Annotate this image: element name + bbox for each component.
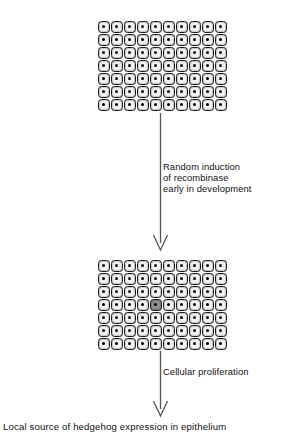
epithelial-cell <box>110 46 123 59</box>
epithelial-cell <box>97 272 110 285</box>
cell-nucleus <box>141 77 144 80</box>
cell-nucleus <box>180 25 183 28</box>
arrow-proliferation <box>152 351 169 419</box>
cell-nucleus <box>180 303 183 306</box>
cell-nucleus <box>167 316 170 319</box>
cell-nucleus <box>154 342 157 345</box>
cell-nucleus <box>167 77 170 80</box>
epithelial-cell <box>110 72 123 85</box>
cell-nucleus <box>102 90 105 93</box>
epithelial-cell <box>136 324 149 337</box>
cell-nucleus <box>180 38 183 41</box>
epithelial-cell <box>188 324 201 337</box>
cell-nucleus <box>167 103 170 106</box>
epithelial-cell <box>136 311 149 324</box>
cell-nucleus <box>102 264 105 267</box>
figure-container: Random induction of recombinase early in… <box>0 0 283 436</box>
epithelial-cell <box>149 59 162 72</box>
cell-nucleus <box>219 264 222 267</box>
epithelial-cell <box>97 324 110 337</box>
epithelial-cell <box>136 85 149 98</box>
cell-nucleus <box>102 25 105 28</box>
cell-nucleus <box>206 77 209 80</box>
epithelial-cell <box>123 46 136 59</box>
cell-nucleus <box>115 38 118 41</box>
epithelial-cell <box>136 98 149 111</box>
cell-nucleus <box>206 342 209 345</box>
cell-nucleus <box>206 329 209 332</box>
epithelial-cell <box>201 298 214 311</box>
epithelial-cell <box>175 311 188 324</box>
cell-nucleus <box>128 51 131 54</box>
cell-nucleus <box>167 342 170 345</box>
step-label-random-induction: Random induction of recombinase early in… <box>163 161 252 195</box>
epithelial-cell <box>201 337 214 350</box>
cell-nucleus <box>167 303 170 306</box>
cell-nucleus <box>128 264 131 267</box>
epithelial-cell <box>188 20 201 33</box>
epithelial-cell <box>110 272 123 285</box>
cell-nucleus <box>128 342 131 345</box>
cell-nucleus <box>180 90 183 93</box>
epithelial-cell <box>201 46 214 59</box>
epithelial-cell <box>97 59 110 72</box>
cell-nucleus <box>154 316 157 319</box>
epithelial-cell <box>123 298 136 311</box>
epithelial-cell <box>175 72 188 85</box>
epithelial-cell <box>162 72 175 85</box>
epithelial-cell <box>188 33 201 46</box>
epithelial-cell <box>214 272 227 285</box>
epithelial-cell <box>149 98 162 111</box>
epithelial-cell <box>149 85 162 98</box>
cell-nucleus <box>193 342 196 345</box>
cell-nucleus <box>219 103 222 106</box>
epithelial-cell <box>175 98 188 111</box>
cell-nucleus <box>128 316 131 319</box>
cell-nucleus <box>154 303 157 306</box>
epithelial-cell <box>97 72 110 85</box>
epithelial-cell <box>149 46 162 59</box>
epithelial-cell <box>136 285 149 298</box>
cell-nucleus <box>115 303 118 306</box>
cell-nucleus <box>193 25 196 28</box>
epithelial-cell <box>162 59 175 72</box>
epithelial-cell <box>201 324 214 337</box>
cell-nucleus <box>180 103 183 106</box>
epithelial-cell <box>123 272 136 285</box>
epithelial-cell <box>175 285 188 298</box>
cell-nucleus <box>141 264 144 267</box>
cell-nucleus <box>167 51 170 54</box>
cell-nucleus <box>128 38 131 41</box>
cell-nucleus <box>102 290 105 293</box>
cell-nucleus <box>141 303 144 306</box>
epithelial-cell <box>97 298 110 311</box>
epithelial-cell <box>201 98 214 111</box>
epithelial-cell <box>110 324 123 337</box>
epithelial-cell <box>149 272 162 285</box>
epithelial-cell <box>175 59 188 72</box>
epithelial-cell <box>175 259 188 272</box>
cell-nucleus <box>128 277 131 280</box>
cell-nucleus <box>206 64 209 67</box>
epithelial-cell <box>97 98 110 111</box>
epithelial-cell <box>162 20 175 33</box>
cell-nucleus <box>193 51 196 54</box>
epithelial-cell <box>110 59 123 72</box>
epithelial-cell <box>214 85 227 98</box>
epithelial-cell <box>123 33 136 46</box>
cell-nucleus <box>180 277 183 280</box>
epithelial-cell <box>162 46 175 59</box>
cell-nucleus <box>115 316 118 319</box>
cell-nucleus <box>115 290 118 293</box>
cell-nucleus <box>193 77 196 80</box>
epithelial-cell <box>162 259 175 272</box>
epithelial-cell <box>214 20 227 33</box>
cell-nucleus <box>102 316 105 319</box>
cell-nucleus <box>115 77 118 80</box>
cell-nucleus <box>167 264 170 267</box>
epithelial-cell <box>136 33 149 46</box>
cell-nucleus <box>141 38 144 41</box>
cell-nucleus <box>219 64 222 67</box>
cell-nucleus <box>219 77 222 80</box>
epithelial-cell <box>97 85 110 98</box>
